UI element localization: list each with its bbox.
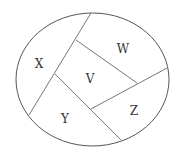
label-v: V	[85, 72, 95, 86]
label-z: Z	[130, 104, 138, 118]
region-diagram: X W V Y Z	[0, 0, 177, 158]
label-x: X	[35, 57, 44, 71]
boundary-z	[91, 68, 167, 109]
label-y: Y	[60, 112, 70, 126]
label-w: W	[117, 42, 130, 56]
